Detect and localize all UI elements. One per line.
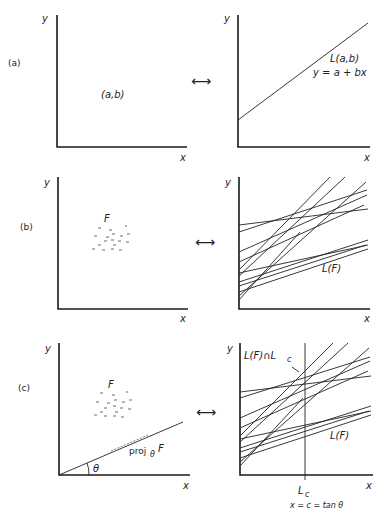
angle-label: θ	[93, 463, 99, 474]
row-b: (b) y x F ⟷ y x	[20, 177, 370, 324]
y-axis-label: y	[43, 177, 51, 188]
axes	[58, 177, 188, 309]
lines-label: L(F)	[330, 430, 349, 441]
y-axis-label: y	[226, 343, 234, 354]
x-axis-label: x	[365, 480, 372, 491]
duality-arrow-icon: ⟷	[196, 404, 216, 420]
line-label: L(a,b)	[330, 53, 359, 64]
set-label-F: F	[108, 379, 114, 390]
row-label-b: (b)	[20, 222, 33, 232]
vline-subscript: c	[305, 490, 310, 499]
intersection-pointer	[292, 367, 299, 372]
y-axis-label: y	[224, 177, 232, 188]
x-axis-label: x	[363, 313, 370, 324]
point-set-F	[94, 392, 132, 417]
proj-label: proj	[129, 446, 146, 456]
dual-lines-L-F	[239, 177, 368, 300]
x-axis-label: x	[179, 152, 186, 163]
vline-equation: x = c = tan θ	[289, 501, 343, 510]
x-axis-label: x	[179, 313, 186, 324]
y-axis-label: y	[44, 343, 52, 354]
panel-c-left: y x F θ proj θ F	[44, 343, 190, 491]
set-label-F: F	[104, 213, 110, 224]
y-axis-label: y	[41, 13, 49, 24]
x-axis-label: x	[182, 480, 189, 491]
duality-arrow-icon: ⟷	[195, 234, 215, 250]
point-line-duality-figure: (a) y x (a,b) ⟷ y x L(a,b) y = a + bx (b…	[0, 0, 387, 520]
x-axis-label: x	[363, 152, 370, 163]
panel-c-right: y x L(F)∩L c L(F) L c	[226, 343, 373, 510]
projection-line-theta	[59, 422, 183, 475]
row-c: (c) y x F θ proj θ F	[18, 343, 373, 510]
row-label-c: (c)	[18, 383, 30, 393]
axes	[238, 15, 370, 147]
angle-arc	[87, 463, 89, 475]
panel-b-right: y x L(F)	[224, 177, 370, 324]
axes	[59, 343, 190, 475]
intersection-label: L(F)∩L	[244, 350, 276, 361]
line-equation: y = a + bx	[312, 67, 367, 78]
intersection-subscript: c	[287, 355, 292, 364]
dual-lines-L-F	[240, 343, 371, 466]
vline-label: L	[298, 485, 304, 496]
point-set-F	[92, 226, 130, 250]
panel-a-left: y x (a,b)	[41, 13, 187, 163]
panel-b-left: y x F	[43, 177, 188, 324]
y-axis-label: y	[223, 13, 231, 24]
point-label: (a,b)	[101, 89, 124, 100]
panel-a-right: y x L(a,b) y = a + bx	[223, 13, 370, 163]
row-label-a: (a)	[8, 58, 21, 68]
proj-F-label: F	[158, 443, 164, 454]
proj-subscript: θ	[150, 450, 155, 459]
lines-label: L(F)	[322, 263, 341, 274]
axes	[57, 15, 187, 147]
duality-arrow-icon: ⟷	[191, 73, 211, 89]
row-a: (a) y x (a,b) ⟷ y x L(a,b) y = a + bx	[8, 13, 370, 163]
